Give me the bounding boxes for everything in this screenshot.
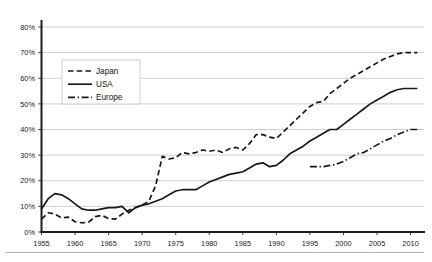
chart-legend: JapanUSAEurope [62,60,140,104]
line-chart: 0%10%20%30%40%50%60%70%80% 1955196019651… [0,0,432,262]
x-tick-label: 1985 [235,239,251,248]
x-tick-label: 1995 [302,239,318,248]
chart-background [0,0,432,262]
x-tick-label: 1975 [167,239,183,248]
chart-canvas: 0%10%20%30%40%50%60%70%80% 1955196019651… [0,0,432,262]
y-axis-tick-labels: 0%10%20%30%40%50%60%70%80% [20,23,35,237]
x-tick-label: 1970 [134,239,150,248]
x-tick-label: 2010 [402,239,418,248]
y-tick-label: 70% [20,48,35,57]
x-tick-label: 2000 [335,239,351,248]
y-tick-label: 20% [20,176,35,185]
x-tick-label: 1955 [33,239,49,248]
x-tick-label: 1980 [201,239,217,248]
y-tick-label: 30% [20,151,35,160]
y-tick-label: 60% [20,74,35,83]
y-tick-label: 50% [20,100,35,109]
y-tick-label: 80% [20,23,35,32]
x-tick-label: 1960 [67,239,83,248]
y-tick-label: 40% [20,125,35,134]
y-tick-label: 0% [24,228,35,237]
x-tick-label: 2005 [369,239,385,248]
x-tick-label: 1990 [268,239,284,248]
legend-label-europe: Europe [96,93,123,102]
x-tick-label: 1965 [100,239,116,248]
y-tick-label: 10% [20,202,35,211]
legend-label-japan: Japan [96,67,119,76]
legend-label-usa: USA [96,80,113,89]
